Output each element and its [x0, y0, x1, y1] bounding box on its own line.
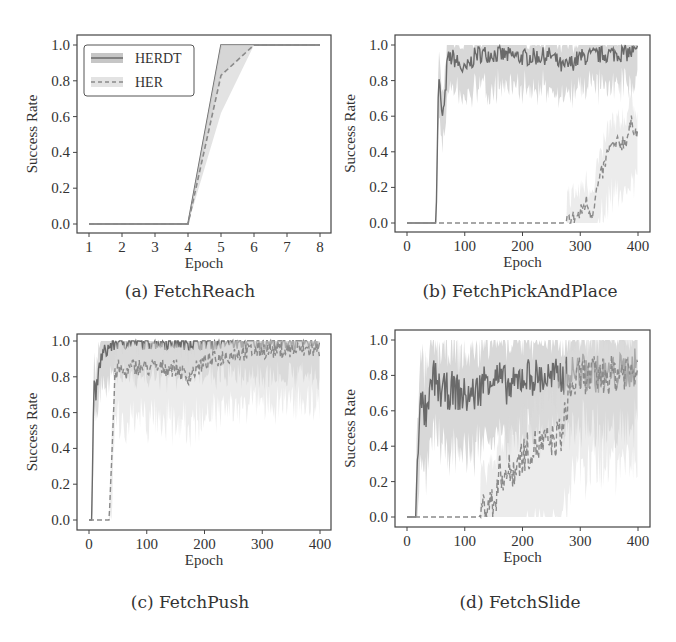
- subplot-b: 0.00.20.40.60.81.00100200300400EpochSucc…: [338, 0, 676, 284]
- caption-d: (d) FetchSlide: [380, 592, 660, 612]
- y-tick-label: 0.4: [369, 144, 388, 160]
- caption-b: (b) FetchPickAndPlace: [380, 281, 660, 301]
- x-tick-label: 2: [118, 239, 126, 255]
- chart-fetchpush: 0.00.20.40.60.81.00100200300400EpochSucc…: [0, 321, 338, 571]
- y-axis-label: Success Rate: [342, 94, 358, 173]
- y-tick-label: 0.2: [51, 476, 70, 492]
- x-tick-label: 200: [511, 238, 534, 254]
- x-tick-label: 6: [250, 239, 258, 255]
- y-tick-label: 0.4: [369, 438, 388, 454]
- x-tick-label: 100: [136, 536, 159, 552]
- y-tick-label: 0.6: [369, 403, 388, 419]
- chart-fetchreach: 0.00.20.40.60.81.012345678EpochSuccess R…: [0, 0, 338, 280]
- y-tick-label: 0.8: [369, 367, 388, 383]
- x-tick-label: 3: [151, 239, 159, 255]
- legend-label: HERDT: [135, 51, 182, 66]
- y-tick-label: 0.0: [369, 215, 388, 231]
- x-axis: 0100200300400: [403, 232, 649, 254]
- x-axis-label: Epoch: [503, 549, 542, 565]
- x-tick-label: 0: [85, 536, 93, 552]
- y-axis: 0.00.20.40.60.81.0: [51, 37, 77, 232]
- y-axis: 0.00.20.40.60.81.0: [51, 333, 77, 528]
- y-tick-label: 0.0: [51, 512, 70, 528]
- legend: HERDTHER: [84, 45, 194, 96]
- chart-fetchslide: 0.00.20.40.60.81.00100200300400EpochSucc…: [338, 321, 676, 571]
- x-tick-label: 300: [569, 238, 592, 254]
- x-tick-label: 5: [217, 239, 225, 255]
- y-tick-label: 0.2: [369, 474, 388, 490]
- x-tick-label: 0: [403, 238, 411, 254]
- x-axis: 0100200300400: [85, 530, 331, 552]
- x-axis: 0100200300400: [403, 527, 649, 549]
- y-tick-label: 0.0: [369, 509, 388, 525]
- x-tick-label: 4: [184, 239, 192, 255]
- y-tick-label: 1.0: [51, 37, 70, 53]
- y-tick-label: 1.0: [369, 37, 388, 53]
- caption-c: (c) FetchPush: [60, 592, 320, 612]
- y-tick-label: 1.0: [51, 333, 70, 349]
- x-tick-label: 8: [316, 239, 324, 255]
- y-tick-label: 0.8: [369, 73, 388, 89]
- y-axis: 0.00.20.40.60.81.0: [369, 332, 395, 525]
- y-axis-label: Success Rate: [24, 94, 40, 173]
- x-axis-label: Epoch: [185, 255, 224, 271]
- y-tick-label: 0.0: [51, 216, 70, 232]
- x-axis: 12345678: [85, 233, 324, 255]
- plot-area: [89, 341, 319, 520]
- y-tick-label: 0.6: [51, 405, 70, 421]
- y-tick-label: 0.4: [51, 440, 70, 456]
- y-tick-label: 0.6: [51, 109, 70, 125]
- her-confidence-band: [89, 341, 319, 520]
- x-tick-label: 400: [627, 238, 650, 254]
- y-tick-label: 0.2: [51, 180, 70, 196]
- y-tick-label: 0.8: [51, 73, 70, 89]
- x-tick-label: 300: [569, 533, 592, 549]
- y-tick-label: 0.8: [51, 369, 70, 385]
- x-tick-label: 0: [403, 533, 411, 549]
- legend-label: HER: [135, 75, 164, 90]
- plot-area: [407, 45, 637, 223]
- y-tick-label: 1.0: [369, 332, 388, 348]
- subplot-a: 0.00.20.40.60.81.012345678EpochSuccess R…: [0, 0, 338, 284]
- x-tick-label: 7: [283, 239, 291, 255]
- plot-area: [407, 340, 637, 517]
- x-tick-label: 400: [309, 536, 332, 552]
- x-axis-label: Epoch: [185, 552, 224, 568]
- y-axis-label: Success Rate: [342, 389, 358, 468]
- x-tick-label: 100: [454, 533, 477, 549]
- x-tick-label: 200: [511, 533, 534, 549]
- x-tick-label: 200: [193, 536, 216, 552]
- y-tick-label: 0.4: [51, 144, 70, 160]
- x-axis-label: Epoch: [503, 254, 542, 270]
- caption-a: (a) FetchReach: [60, 281, 320, 301]
- y-axis-label: Success Rate: [24, 392, 40, 471]
- x-tick-label: 100: [454, 238, 477, 254]
- chart-fetchpickandplace: 0.00.20.40.60.81.00100200300400EpochSucc…: [338, 0, 676, 280]
- y-tick-label: 0.2: [369, 179, 388, 195]
- x-tick-label: 300: [251, 536, 274, 552]
- subplot-c: 0.00.20.40.60.81.00100200300400EpochSucc…: [0, 321, 338, 575]
- subplot-d: 0.00.20.40.60.81.00100200300400EpochSucc…: [338, 321, 676, 575]
- y-axis: 0.00.20.40.60.81.0: [369, 37, 395, 231]
- y-tick-label: 0.6: [369, 108, 388, 124]
- x-tick-label: 1: [85, 239, 93, 255]
- x-tick-label: 400: [627, 533, 650, 549]
